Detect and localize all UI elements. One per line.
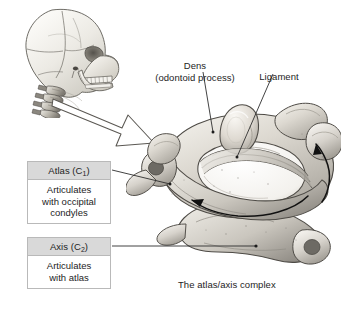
figure-caption: The atlas/axis complex: [178, 279, 276, 290]
anatomy-figure: Dens (odontoid process) Ligament Atlas (…: [0, 0, 341, 313]
atlas-leader-line: [112, 170, 170, 184]
callout-atlas[interactable]: Atlas (C1) Articulates with occipital co…: [27, 161, 111, 224]
ligament-label: Ligament: [248, 71, 310, 83]
ligament-leader-line: [237, 74, 273, 157]
callout-axis[interactable]: Axis (C2) Articulates with atlas: [27, 237, 111, 289]
callout-axis-title: Axis (C2): [28, 238, 110, 256]
callout-axis-title-end: ): [85, 241, 88, 252]
dens-label: Dens (odontoid process): [140, 60, 250, 83]
callout-atlas-title-end: ): [86, 165, 89, 176]
callout-axis-title-main: Axis (C: [50, 241, 81, 252]
callout-atlas-body: Articulates with occipital condyles: [28, 180, 110, 223]
callout-axis-body: Articulates with atlas: [28, 256, 110, 288]
callout-atlas-title: Atlas (C1): [28, 162, 110, 180]
callout-atlas-title-main: Atlas (C: [48, 165, 82, 176]
